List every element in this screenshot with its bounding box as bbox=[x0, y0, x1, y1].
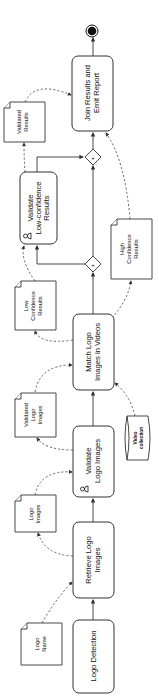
task-label: Validate bbox=[84, 448, 93, 475]
task-label: Join Results and bbox=[83, 65, 92, 121]
doc-label: Confidence bbox=[30, 291, 36, 320]
process-diagram: Logo Detection Retrieve Logo Images Vali… bbox=[0, 0, 159, 697]
document-validated-logo-images[interactable]: Validated Logo Images bbox=[15, 393, 56, 437]
task-label: Logo Images bbox=[93, 439, 102, 483]
doc-label: Validated bbox=[16, 110, 22, 134]
document-high-confidence-results[interactable]: High Confidence Results bbox=[111, 219, 152, 279]
task-label: Emit Report bbox=[92, 72, 101, 113]
task-label: Results bbox=[42, 195, 51, 221]
doc-label: High bbox=[119, 243, 125, 255]
task-logo-detection[interactable]: Logo Detection bbox=[73, 620, 114, 693]
datastore-label: collection bbox=[139, 427, 144, 449]
doc-label: Name bbox=[41, 636, 47, 651]
document-logo-name[interactable]: Logo Name bbox=[21, 623, 62, 665]
document-logo-images[interactable]: Logo Images bbox=[15, 495, 56, 532]
doc-label: Results bbox=[133, 239, 139, 258]
task-retrieve-logo-images[interactable]: Retrieve Logo Images bbox=[73, 522, 114, 598]
doc-label: Images bbox=[37, 405, 43, 424]
doc-label: Validated bbox=[23, 403, 29, 427]
doc-label: Images bbox=[35, 504, 41, 523]
doc-label: Confidence bbox=[126, 234, 132, 263]
task-label: Match Logo bbox=[84, 332, 93, 372]
task-label: Images bbox=[93, 547, 102, 572]
doc-label: Logo bbox=[28, 508, 34, 521]
task-match-logo-images[interactable]: Match Logo Images in Videos bbox=[73, 314, 114, 390]
task-label: Images in Videos bbox=[93, 323, 102, 381]
parallel-gateway-join[interactable]: + bbox=[85, 149, 101, 165]
datastore-label: Video bbox=[133, 431, 138, 444]
task-join-results[interactable]: Join Results and Emit Report bbox=[72, 56, 113, 131]
doc-label: Logo bbox=[34, 638, 40, 651]
doc-label: Results bbox=[37, 296, 43, 315]
document-low-confidence-results[interactable]: Low Confidence Results bbox=[15, 281, 56, 330]
doc-label: Results bbox=[23, 112, 29, 131]
doc-label: Low bbox=[23, 300, 29, 311]
document-validated-results[interactable]: Validated Results bbox=[4, 102, 45, 142]
parallel-gateway-split[interactable]: + bbox=[85, 256, 101, 272]
task-label: Retrieve Logo bbox=[84, 536, 93, 583]
datastore-video-collection[interactable]: Video collection bbox=[125, 416, 150, 460]
task-validate-low-confidence[interactable]: Validate Low-confidence Results bbox=[20, 172, 57, 244]
task-validate-logo-images[interactable]: Validate Logo Images bbox=[73, 426, 114, 497]
doc-label: Logo bbox=[30, 409, 36, 422]
end-event[interactable] bbox=[86, 25, 98, 37]
task-label: Logo Detection bbox=[89, 630, 98, 681]
